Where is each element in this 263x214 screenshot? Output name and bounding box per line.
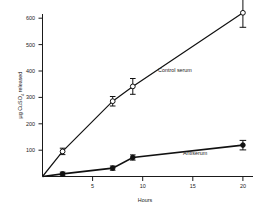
data-point-anti-7 <box>110 166 115 171</box>
data-point-anti-20 <box>241 143 246 148</box>
data-point-control-2 <box>60 149 65 154</box>
y-tick-label-300: 300 <box>26 94 35 100</box>
y-tick-label-500: 500 <box>26 42 35 48</box>
data-point-control-7 <box>110 99 115 104</box>
y-tick-label-200: 200 <box>26 121 35 127</box>
y-axis-tick-labels: 100 200 300 400 500 600 <box>26 15 35 153</box>
data-point-anti-9 <box>131 155 136 160</box>
x-tick-label-10: 10 <box>140 183 146 189</box>
chart-figure: 100 200 300 400 500 600 5 10 15 20 Hours… <box>0 0 263 214</box>
series-label-antiserum: Antiserum <box>183 150 208 156</box>
y-axis-ticks <box>39 18 43 150</box>
y-axis-title-main: µg CuSO <box>17 96 23 118</box>
control-serum-markers <box>60 10 245 153</box>
antiserum-line-path <box>43 145 243 176</box>
x-axis-tick-labels: 5 10 15 20 <box>91 183 246 189</box>
x-axis-title: Hours <box>138 197 153 203</box>
x-tick-label-15: 15 <box>190 183 196 189</box>
series-label-control-serum: Control serum <box>158 67 192 73</box>
series-antiserum <box>43 140 247 176</box>
x-tick-label-5: 5 <box>91 183 94 189</box>
y-axis-title-tail: released <box>17 72 23 94</box>
control-serum-errorbars <box>60 0 246 155</box>
x-axis-ticks <box>93 177 243 182</box>
y-axis-title: µg CuSO4 released <box>17 72 25 119</box>
line-chart: 100 200 300 400 500 600 5 10 15 20 Hours… <box>0 0 263 214</box>
axes <box>43 14 254 177</box>
data-point-control-20 <box>241 10 246 15</box>
svg-text:µg CuSO4 released: µg CuSO4 released <box>17 72 25 119</box>
y-tick-label-400: 400 <box>26 68 35 74</box>
data-point-control-9 <box>130 84 135 89</box>
series-control-serum <box>43 0 247 176</box>
data-point-anti-2 <box>60 172 65 177</box>
y-tick-label-600: 600 <box>26 15 35 21</box>
y-tick-label-100: 100 <box>26 147 35 153</box>
control-serum-line-path <box>43 13 243 177</box>
x-tick-label-20: 20 <box>240 183 246 189</box>
